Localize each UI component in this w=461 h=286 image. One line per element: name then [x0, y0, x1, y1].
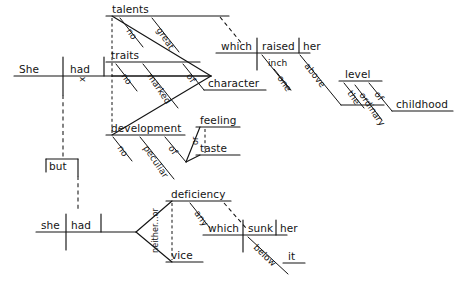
- word-neither-or: neither...or: [151, 207, 160, 253]
- clause-conjunction-but: but: [46, 95, 78, 212]
- sentence-diagram: She had x talents no great trait: [0, 0, 461, 286]
- word-level: level: [345, 68, 370, 80]
- fork-arm-talents: [112, 16, 211, 76]
- word-or-1: or: [191, 136, 200, 145]
- word-marked: marked: [145, 72, 173, 106]
- word-inch: inch: [268, 58, 287, 68]
- word-which-2: which: [208, 222, 239, 234]
- word-had-2: had: [71, 219, 91, 231]
- word-raised: raised: [262, 40, 295, 52]
- word-peculiar: peculiar: [141, 144, 170, 180]
- word-below: below: [252, 242, 278, 268]
- word-deficiency: deficiency: [171, 188, 226, 200]
- word-her-2: her: [280, 222, 298, 234]
- word-vice: vice: [171, 249, 193, 261]
- word-of-1: of: [184, 72, 198, 86]
- word-above: above: [302, 61, 327, 90]
- word-but: but: [49, 160, 67, 172]
- word-of-2: of: [166, 144, 180, 158]
- word-it: it: [288, 250, 295, 262]
- word-taste: taste: [200, 142, 227, 154]
- word-she-1: She: [19, 63, 39, 75]
- word-her-1: her: [303, 40, 321, 52]
- word-one: one: [275, 74, 293, 94]
- word-x-marker: x: [77, 76, 87, 82]
- word-feeling: feeling: [200, 114, 236, 126]
- object-traits: traits no marked of character: [106, 49, 266, 108]
- word-which-1: which: [221, 40, 252, 52]
- word-had-1: had: [70, 63, 90, 75]
- word-sunk: sunk: [248, 222, 274, 234]
- word-traits: traits: [111, 49, 139, 61]
- diagram-canvas: She had x talents no great trait: [0, 0, 461, 286]
- relative-clause-2: which sunk her below it: [203, 220, 305, 274]
- word-character: character: [208, 77, 260, 89]
- word-great: great: [154, 26, 176, 52]
- word-childhood: childhood: [396, 98, 448, 110]
- word-development: development: [111, 122, 181, 134]
- main-clause-2: she had: [36, 214, 136, 250]
- word-she-2: she: [41, 219, 60, 231]
- word-talents: talents: [112, 3, 149, 15]
- object-development: development no peculiar of feeling taste…: [106, 114, 240, 180]
